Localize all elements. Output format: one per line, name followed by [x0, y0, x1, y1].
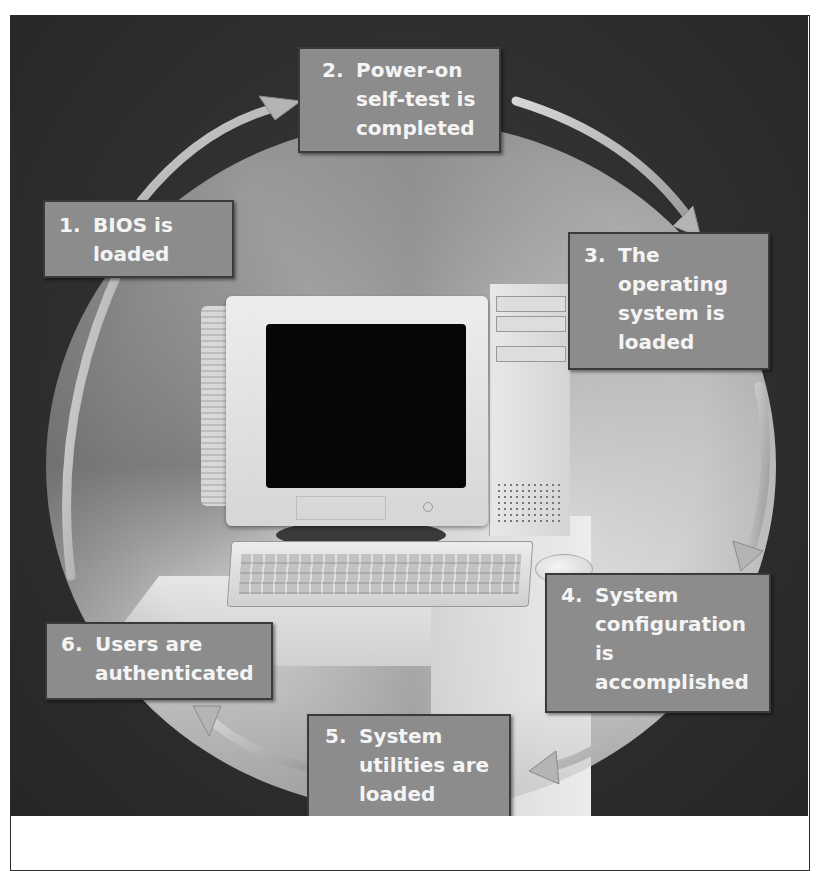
step-number: 1.: [59, 211, 93, 269]
monitor-screen: [266, 324, 466, 488]
arrow-5-to-6: [206, 716, 311, 768]
step-text: System utilities are loaded: [359, 722, 489, 809]
arrow-3-to-4: [749, 386, 766, 556]
keyboard: [227, 541, 534, 607]
step-text: System configuration is accomplished: [595, 581, 749, 697]
step-number: 4.: [561, 581, 595, 697]
arrowhead-3: [733, 541, 763, 571]
step-4-label: 4. System configuration is accomplished: [545, 573, 771, 713]
arrowhead-4: [529, 751, 559, 784]
step-text: BIOS is loaded: [93, 211, 173, 269]
step-6-label: 6. Users are authenticated: [45, 622, 273, 700]
step-number: 2.: [322, 56, 356, 143]
arrow-1-to-2: [141, 106, 281, 201]
step-2-label: 2. Power-on self-test is completed: [298, 47, 501, 153]
arrow-6-to-1: [67, 266, 121, 576]
arrow-4-to-5: [546, 716, 631, 768]
step-5-box: 5. System utilities are loaded: [307, 714, 511, 816]
step-number: 3.: [584, 241, 618, 357]
front-panel-controls: [496, 346, 566, 362]
drive-bay-cdrom: [496, 296, 566, 312]
step-number: 5.: [325, 722, 359, 809]
tower-vent: [496, 482, 562, 522]
step-3-label: 3. The operating system is loaded: [568, 232, 770, 370]
step-number: 6.: [61, 630, 95, 688]
power-button-icon: [423, 502, 433, 512]
step-text: The operating system is loaded: [618, 241, 728, 357]
arrow-2-to-3: [516, 101, 691, 221]
keyboard-keys: [239, 554, 522, 594]
step-text: Power-on self-test is completed: [356, 56, 475, 143]
step-text: Users are authenticated: [95, 630, 254, 688]
drive-bay-floppy: [496, 316, 566, 332]
crt-monitor: [226, 296, 488, 526]
step-1-label: 1. BIOS is loaded: [43, 200, 234, 278]
monitor-control-panel: [296, 496, 386, 520]
computer-tower: [489, 284, 570, 536]
diagram-panel: 1. BIOS is loaded 2. Power-on self-test …: [11, 16, 808, 816]
